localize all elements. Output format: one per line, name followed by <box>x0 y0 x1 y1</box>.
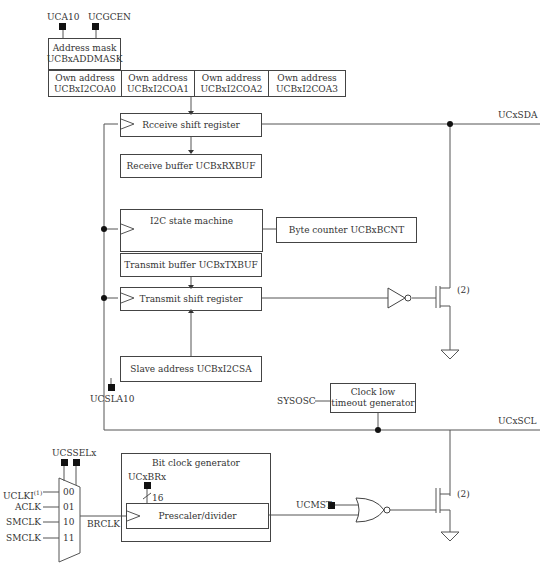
mux-sel-1: 01 <box>63 502 74 513</box>
address-mask-block: Address mask UCBxADDMASK <box>48 38 121 70</box>
mux-sel-3: 11 <box>63 533 74 544</box>
i2c-state-machine-label: I2C state machine <box>121 216 262 227</box>
inverter-gate <box>388 288 405 308</box>
receive-shift-register: Rcceive shift register <box>120 113 262 137</box>
own-address-1-line1: Own address <box>128 73 188 84</box>
sysosc-label: SYSOSC <box>277 396 316 407</box>
clock-low-timeout-generator: Clock low timeout generator <box>330 383 416 413</box>
own-address-2-line1: Own address <box>202 73 262 84</box>
brclk-label: BRCLK <box>87 519 120 530</box>
address-mask-line2: UCBxADDMASK <box>47 54 123 65</box>
prescaler-divider: Prescaler/divider <box>126 503 269 529</box>
own-address-0-line2: UCBxI2COA0 <box>54 84 116 95</box>
transmit-buffer: Transmit buffer UCBxTXBUF <box>120 253 262 277</box>
mux-input-2: SMCLK <box>3 517 41 528</box>
address-mask-line1: Address mask <box>53 43 117 54</box>
ucmst-label: UCMST <box>296 500 332 511</box>
mux-input-0-name: UCLKI <box>3 491 34 501</box>
receive-buffer-label: Receive buffer UCBxRXBUF <box>127 161 256 172</box>
ucgcen-label: UCGCEN <box>88 12 131 23</box>
own-address-0: Own address UCBxI2COA0 <box>48 70 122 97</box>
transmit-shift-register: Transmit shift register <box>120 287 262 311</box>
uca10-label: UCA10 <box>47 12 79 23</box>
i2c-state-machine: I2C state machine <box>120 209 263 252</box>
ucsla10-label: UCSLA10 <box>90 394 135 405</box>
nor-gate <box>356 498 384 522</box>
ucxsda-label: UCxSDA <box>498 110 537 121</box>
receive-buffer: Receive buffer UCBxRXBUF <box>120 154 262 178</box>
mux-input-0: UCLKI(1) <box>3 487 41 502</box>
byte-counter: Byte counter UCBxBCNT <box>276 217 417 243</box>
clock-low-line1: Clock low <box>351 387 396 398</box>
own-address-0-line1: Own address <box>55 73 115 84</box>
ground-sda <box>441 350 459 359</box>
mux-sel-2: 10 <box>63 517 74 528</box>
own-address-1: Own address UCBxI2COA1 <box>121 70 195 97</box>
own-address-2: Own address UCBxI2COA2 <box>194 70 269 97</box>
ucxscl-label: UCxSCL <box>498 416 537 427</box>
transmit-shift-register-label: Transmit shift register <box>139 294 242 305</box>
mux-input-1: ACLK <box>3 502 41 513</box>
bit-clock-generator-title: Bit clock generator <box>122 458 270 469</box>
own-address-2-line2: UCBxI2COA2 <box>201 84 263 95</box>
sda-note-label: (2) <box>457 285 470 296</box>
sda-junction <box>447 121 453 127</box>
ucsselx-label: UCSSELx <box>52 448 96 459</box>
scl-junction <box>375 427 381 433</box>
clock-low-line2: timeout generator <box>331 398 414 409</box>
own-address-3: Own address UCBxI2COA3 <box>268 70 346 97</box>
mux-input-3: SMCLK <box>3 533 41 544</box>
ground-scl <box>441 532 459 541</box>
mux-sel-0: 00 <box>63 487 74 498</box>
receive-shift-register-label: Rcceive shift register <box>142 120 240 131</box>
own-address-3-line1: Own address <box>277 73 337 84</box>
byte-counter-label: Byte counter UCBxBCNT <box>289 225 404 236</box>
prescaler-divider-label: Prescaler/divider <box>158 511 236 522</box>
mux-input-0-sup: (1) <box>34 489 43 496</box>
scl-note-label: (2) <box>457 489 470 500</box>
own-address-3-line2: UCBxI2COA3 <box>276 84 338 95</box>
slave-address-label: Slave address UCBxI2CSA <box>130 364 251 375</box>
ucxbrx-label: UCxBRx <box>128 472 166 483</box>
own-address-1-line2: UCBxI2COA1 <box>127 84 189 95</box>
transmit-buffer-label: Transmit buffer UCBxTXBUF <box>124 260 257 271</box>
slave-address: Slave address UCBxI2CSA <box>120 356 262 382</box>
